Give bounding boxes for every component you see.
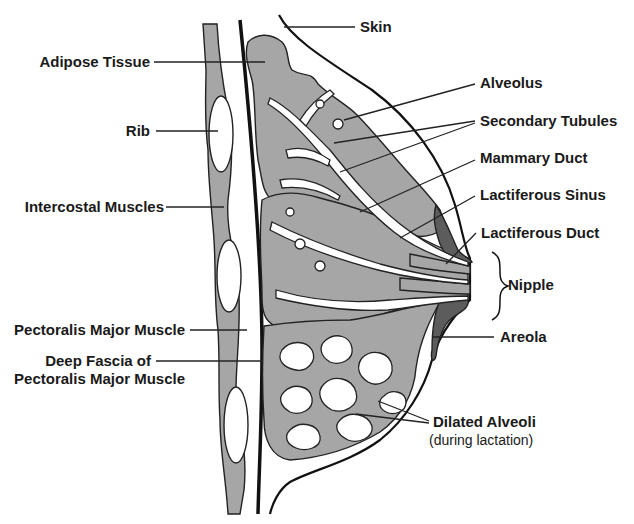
- label-lactiferous-sinus: Lactiferous Sinus: [480, 186, 606, 203]
- rib-3: [224, 387, 248, 463]
- leader-alveolus: [344, 84, 475, 120]
- label-during-lactation: (during lactation): [429, 432, 533, 448]
- areola-region: [431, 300, 468, 360]
- dilated-alveolus-1: [280, 343, 314, 371]
- label-lactiferous-duct: Lactiferous Duct: [481, 224, 599, 241]
- label-deep-fascia-line1: Deep Fascia of: [45, 352, 152, 369]
- label-intercostal-muscles: Intercostal Muscles: [25, 198, 164, 215]
- label-nipple: Nipple: [508, 276, 554, 293]
- label-alveolus: Alveolus: [480, 74, 543, 91]
- alveolus-5: [315, 261, 325, 271]
- left-labels: Adipose Tissue Rib Intercostal Muscles P…: [14, 53, 185, 387]
- label-pectoralis-major: Pectoralis Major Muscle: [14, 321, 185, 338]
- label-rib: Rib: [126, 122, 150, 139]
- alveolus-1: [333, 119, 343, 129]
- breast-anatomy-diagram: Adipose Tissue Rib Intercostal Muscles P…: [0, 0, 634, 524]
- label-secondary-tubules: Secondary Tubules: [480, 112, 617, 129]
- rib-1: [209, 96, 233, 172]
- dilated-alveolus-3: [281, 386, 313, 413]
- label-adipose-tissue: Adipose Tissue: [39, 53, 150, 70]
- dilated-alveolus-4: [320, 378, 357, 411]
- nipple-brace: [492, 252, 508, 320]
- glandular-tissue: [246, 35, 472, 460]
- dilated-alveolus-6: [287, 424, 321, 449]
- alveolus-4: [295, 239, 305, 249]
- label-dilated-alveoli: Dilated Alveoli: [433, 413, 536, 430]
- alveolus-3: [286, 208, 294, 216]
- dilated-alveolus-5: [359, 352, 393, 384]
- label-mammary-duct: Mammary Duct: [480, 149, 588, 166]
- label-areola: Areola: [500, 328, 547, 345]
- label-deep-fascia-line2: Pectoralis Major Muscle: [14, 370, 185, 387]
- dilated-alveolus-2: [321, 336, 352, 363]
- alveolus-2: [316, 100, 324, 108]
- label-skin: Skin: [360, 18, 392, 35]
- rib-2: [217, 240, 241, 312]
